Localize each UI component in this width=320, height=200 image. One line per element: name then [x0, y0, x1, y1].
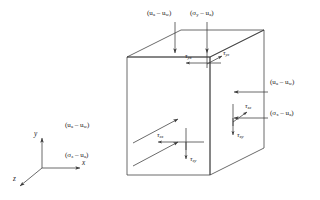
- tau-xz-arrow: [233, 112, 247, 122]
- top-pore-pressure-label: (ua – uw): [147, 10, 171, 18]
- right-face-arrows: [233, 92, 268, 135]
- top-face-arrows: [175, 22, 222, 68]
- top-normal-stress-label: (σy – ua): [190, 10, 214, 18]
- y-axis-label: y: [34, 131, 37, 138]
- axis-triad: [20, 138, 80, 186]
- front-pore-pressure-arrow: [133, 119, 178, 143]
- tau-zy-label: τzy: [190, 156, 196, 164]
- z-axis-label: z: [13, 176, 16, 183]
- cube-front-face: [127, 57, 210, 175]
- tau-xy-label: τxy: [237, 132, 244, 140]
- tau-yx-label: τyx: [185, 53, 192, 61]
- cube-right-face: [210, 30, 264, 175]
- figure-canvas: [0, 0, 320, 200]
- tau-zx-label: τzx: [157, 132, 163, 140]
- front-normal-stress-arrow: [133, 142, 178, 166]
- tau-xz-label: τxz: [245, 103, 251, 111]
- tau-yz-label: τyz: [223, 50, 229, 58]
- cube-top-face: [127, 30, 264, 57]
- right-pore-pressure-label: (ua – uw): [270, 79, 294, 87]
- x-axis-label: x: [82, 160, 85, 167]
- z-axis-line: [20, 168, 42, 186]
- front-pore-pressure-label: (ua – uw): [65, 122, 89, 130]
- cube-wireframe: [127, 30, 264, 175]
- right-normal-stress-label: (σx – ua): [270, 110, 294, 118]
- stress-element-figure: (ua – uw) (σy – ua) τyx τyz (ua – uw) (σ…: [0, 0, 320, 200]
